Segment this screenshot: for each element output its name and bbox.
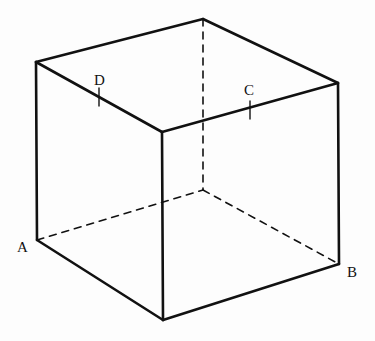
- left-vertical-edge: [36, 62, 37, 240]
- point-label-c: C: [244, 82, 254, 98]
- vertex-label-b: B: [347, 264, 357, 280]
- figure-background: [0, 0, 375, 341]
- right-vertical-edge: [338, 83, 339, 264]
- cube-diagram: ABCD: [0, 0, 375, 341]
- point-label-d: D: [94, 72, 105, 88]
- figure-canvas: ABCD: [0, 0, 375, 341]
- front-vertical-edge: [162, 132, 163, 320]
- vertex-label-a: A: [17, 239, 28, 255]
